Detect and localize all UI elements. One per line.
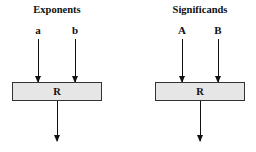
input-label-a: a [30, 24, 46, 36]
register-label: R [196, 86, 204, 97]
arrow-down-icon [57, 101, 58, 141]
register-diagram: Exponents a b R Significands A B R [0, 0, 256, 152]
arrow-down-icon [182, 39, 183, 82]
register-box-significands: R [155, 82, 245, 101]
arrow-down-icon [38, 39, 39, 82]
input-label-B: B [210, 24, 226, 36]
register-label: R [53, 86, 61, 97]
arrow-down-icon [75, 39, 76, 82]
arrow-down-icon [200, 101, 201, 141]
arrow-down-icon [218, 39, 219, 82]
input-label-A: A [174, 24, 190, 36]
significands-title: Significands [150, 4, 250, 15]
register-box-exponents: R [12, 82, 102, 101]
exponents-title: Exponents [7, 4, 107, 15]
input-label-b: b [67, 24, 83, 36]
